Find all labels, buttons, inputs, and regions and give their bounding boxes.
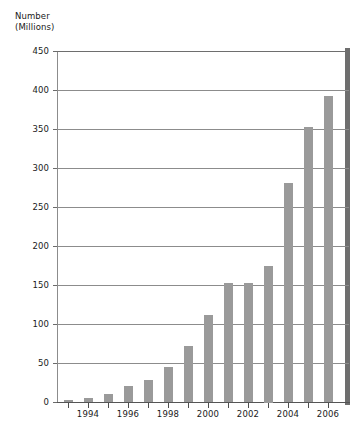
y-axis-label: 200 (9, 241, 49, 251)
bar (204, 315, 213, 402)
bar (144, 380, 153, 402)
y-axis-tick (53, 363, 57, 364)
y-axis-label: 450 (9, 46, 49, 56)
bar (164, 367, 173, 402)
x-axis-line (57, 402, 350, 403)
bar (124, 386, 133, 402)
y-axis-tick (53, 51, 57, 52)
x-axis-label: 1994 (77, 409, 99, 419)
x-axis-tick (268, 403, 269, 408)
bar (64, 400, 73, 402)
x-axis-label: 1998 (157, 409, 179, 419)
y-axis-title: Number (Millions) (15, 11, 54, 33)
gridline (57, 51, 349, 52)
y-axis-tick (53, 246, 57, 247)
y-axis-tick (53, 90, 57, 91)
y-axis-label: 400 (9, 85, 49, 95)
bar (284, 183, 293, 402)
x-axis-tick (68, 403, 69, 408)
bar (104, 394, 113, 402)
y-axis-title-line-2: (Millions) (15, 22, 54, 33)
x-axis-tick (228, 403, 229, 408)
x-axis-label: 2000 (197, 409, 219, 419)
x-axis-tick (288, 403, 289, 408)
x-axis-tick (108, 403, 109, 408)
y-axis-label: 350 (9, 124, 49, 134)
x-axis-tick (308, 403, 309, 408)
bar (184, 346, 193, 402)
y-axis-label: 100 (9, 319, 49, 329)
bar (244, 283, 253, 402)
y-axis-label: 250 (9, 202, 49, 212)
bar (304, 127, 313, 402)
x-axis-tick (88, 403, 89, 408)
bar (84, 398, 93, 402)
y-axis-label: 0 (9, 397, 49, 407)
y-axis-tick (53, 324, 57, 325)
x-axis-tick (168, 403, 169, 408)
bar-chart: Number (Millions) 0501001502002503003504… (0, 0, 361, 430)
bar (224, 283, 233, 402)
x-axis-tick (148, 403, 149, 408)
y-axis-tick (53, 285, 57, 286)
x-axis-label: 1996 (117, 409, 139, 419)
x-axis-label: 2004 (277, 409, 299, 419)
bar (324, 96, 333, 402)
x-axis-tick (328, 403, 329, 408)
x-axis-tick (188, 403, 189, 408)
gridline (57, 90, 349, 91)
y-axis-label: 150 (9, 280, 49, 290)
y-axis-tick (53, 402, 57, 403)
x-axis-tick (128, 403, 129, 408)
y-axis-label: 300 (9, 163, 49, 173)
x-axis-label: 2006 (317, 409, 339, 419)
y-axis-tick (53, 129, 57, 130)
y-axis-label: 50 (9, 358, 49, 368)
x-axis-tick (248, 403, 249, 408)
bar (264, 266, 273, 403)
x-axis-tick (208, 403, 209, 408)
x-axis-label: 2002 (237, 409, 259, 419)
y-axis-tick (53, 168, 57, 169)
y-axis-tick (53, 207, 57, 208)
y-axis-title-line-1: Number (15, 11, 54, 22)
